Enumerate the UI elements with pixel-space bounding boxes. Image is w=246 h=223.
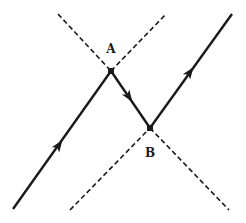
dashed-line-lower-left: [70, 128, 150, 210]
incoming-ray: [13, 71, 111, 209]
point-a-label: A: [105, 42, 116, 56]
diagram-canvas: A B: [0, 0, 246, 223]
point-b-label: B: [145, 146, 155, 160]
point-b-marker: [147, 125, 153, 131]
dashed-line-upper-left: [58, 14, 111, 71]
point-a-marker: [108, 68, 114, 74]
diagram-svg: A B: [0, 0, 246, 223]
dashed-line-upper-right: [111, 14, 166, 71]
dashed-line-lower-right: [150, 128, 229, 210]
